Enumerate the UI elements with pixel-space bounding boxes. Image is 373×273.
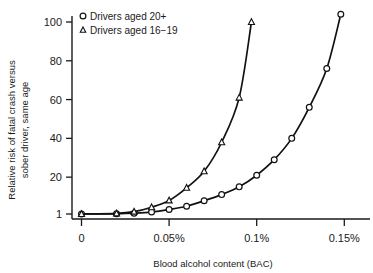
data-point-marker-circle: [184, 203, 190, 209]
series-line: [82, 14, 341, 214]
data-point-marker-triangle: [166, 197, 172, 203]
data-point-marker-circle: [201, 198, 207, 204]
data-point-marker-triangle: [236, 94, 242, 100]
chart-legend: Drivers aged 20+Drivers aged 16−19: [80, 11, 178, 36]
data-point-marker-circle: [338, 11, 344, 17]
series-line: [82, 22, 252, 214]
legend-marker-triangle-icon: [80, 27, 86, 32]
y-tick-label: 60: [50, 94, 62, 106]
data-point-marker-triangle: [248, 19, 254, 25]
data-point-marker-triangle: [131, 208, 137, 214]
x-axis-ticks: 00.05%0.1%0.15%: [78, 219, 360, 244]
legend-item[interactable]: Drivers aged 16−19: [80, 25, 178, 36]
x-tick-label: 0.05%: [153, 232, 184, 244]
data-point-marker-circle: [219, 192, 225, 198]
series-teens: [78, 19, 254, 217]
series-adults: [79, 11, 344, 217]
y-axis-title-line1: Relative risk of fatal crash versus: [6, 60, 17, 200]
legend-item-label: Drivers aged 20+: [90, 11, 167, 22]
y-axis-title-line2: sober driver, same age: [19, 82, 30, 179]
legend-item[interactable]: Drivers aged 20+: [80, 11, 166, 22]
x-tick-label: 0.1%: [244, 232, 269, 244]
x-tick-label: 0: [78, 232, 84, 244]
y-tick-label: 80: [50, 55, 62, 67]
data-point-marker-circle: [254, 172, 260, 178]
data-point-marker-triangle: [149, 204, 155, 210]
y-tick-label: 20: [50, 171, 62, 183]
legend-marker-circle-icon: [80, 13, 86, 19]
y-tick-label: 100: [44, 16, 62, 28]
data-series-layer: [78, 11, 343, 217]
y-axis-title: Relative risk of fatal crash versus sobe…: [6, 60, 30, 200]
x-tick-label: 0.15%: [329, 232, 360, 244]
legend-item-label: Drivers aged 16−19: [90, 25, 178, 36]
chart-container: Relative risk of fatal crash versus sobe…: [0, 0, 373, 273]
data-point-marker-circle: [236, 184, 242, 190]
data-point-marker-triangle: [219, 139, 225, 145]
data-point-marker-triangle: [114, 210, 120, 216]
data-point-marker-circle: [166, 207, 172, 213]
x-axis-title: Blood alcohol content (BAC): [153, 258, 272, 269]
y-axis-ticks: 120406080100: [44, 16, 72, 220]
y-tick-label: 1: [56, 208, 62, 220]
data-point-marker-circle: [324, 66, 330, 72]
data-point-marker-circle: [289, 135, 295, 141]
relative-risk-line-chart: Relative risk of fatal crash versus sobe…: [0, 0, 373, 273]
data-point-marker-circle: [271, 157, 277, 163]
data-point-marker-circle: [306, 104, 312, 110]
y-tick-label: 40: [50, 132, 62, 144]
